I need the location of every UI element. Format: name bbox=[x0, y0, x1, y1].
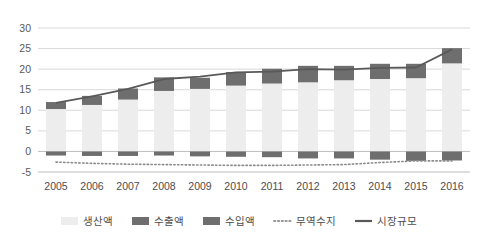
import-bar bbox=[262, 151, 282, 157]
y-tick-label-0: 0 bbox=[25, 145, 31, 157]
import-bar bbox=[298, 151, 318, 158]
legend-label-시장규모: 시장규모 bbox=[377, 215, 417, 227]
legend-label-수출액: 수출액 bbox=[154, 215, 184, 227]
trade-statistics-chart: -5051015202530 2005200620072008200920102… bbox=[0, 0, 478, 235]
export-bar bbox=[442, 48, 462, 63]
production-bar bbox=[442, 63, 462, 151]
legend-marker-수입액-swatch-icon bbox=[203, 217, 220, 225]
production-bar bbox=[118, 100, 138, 152]
x-tick-label-2005: 2005 bbox=[44, 180, 68, 192]
production-bar bbox=[154, 91, 174, 151]
import-bar bbox=[442, 151, 462, 160]
production-bar bbox=[298, 82, 318, 151]
import-bar bbox=[46, 151, 66, 155]
production-bar bbox=[226, 86, 246, 152]
legend-marker-수출액-swatch-icon bbox=[132, 217, 149, 225]
y-tick-label-30: 30 bbox=[19, 22, 31, 34]
y-tick-label-5: 5 bbox=[25, 124, 31, 136]
y-tick-label-20: 20 bbox=[19, 63, 31, 75]
y-tick-label-25: 25 bbox=[19, 42, 31, 54]
production-bar bbox=[262, 84, 282, 152]
export-bar bbox=[370, 64, 390, 79]
import-bar bbox=[226, 151, 246, 156]
x-tick-label-2010: 2010 bbox=[224, 180, 248, 192]
production-bar bbox=[46, 109, 66, 151]
export-bar bbox=[46, 102, 66, 109]
export-bar bbox=[190, 78, 210, 89]
chart-container: -5051015202530 2005200620072008200920102… bbox=[0, 0, 478, 235]
production-bar bbox=[370, 79, 390, 151]
x-tick-label-2013: 2013 bbox=[332, 180, 356, 192]
import-bar bbox=[190, 151, 210, 156]
x-tick-label-2011: 2011 bbox=[261, 180, 284, 192]
x-tick-label-2015: 2015 bbox=[404, 180, 428, 192]
import-bar bbox=[82, 151, 102, 156]
x-tick-label-2007: 2007 bbox=[116, 180, 140, 192]
y-tick-label--5: -5 bbox=[22, 166, 31, 178]
legend-label-무역수지: 무역수지 bbox=[296, 215, 336, 227]
x-tick-label-2009: 2009 bbox=[188, 180, 212, 192]
y-tick-label-15: 15 bbox=[19, 83, 31, 95]
import-bar bbox=[406, 151, 426, 160]
import-bar bbox=[154, 151, 174, 155]
export-bar bbox=[406, 64, 426, 78]
x-tick-label-2014: 2014 bbox=[368, 180, 392, 192]
production-bar bbox=[334, 80, 354, 151]
legend-label-수입액: 수입액 bbox=[225, 215, 255, 227]
y-tick-label-10: 10 bbox=[19, 104, 31, 116]
import-bar bbox=[334, 151, 354, 158]
production-bar bbox=[82, 105, 102, 151]
x-tick-label-2012: 2012 bbox=[296, 180, 320, 192]
export-bar bbox=[334, 66, 354, 80]
production-bar bbox=[406, 78, 426, 151]
legend-label-생산액: 생산액 bbox=[83, 215, 113, 227]
x-tick-label-2016: 2016 bbox=[440, 180, 464, 192]
import-bar bbox=[370, 151, 390, 159]
x-tick-label-2008: 2008 bbox=[152, 180, 176, 192]
import-bar bbox=[118, 151, 138, 156]
x-tick-label-2006: 2006 bbox=[80, 180, 104, 192]
legend-marker-생산액-swatch-icon bbox=[61, 217, 78, 225]
production-bar bbox=[190, 89, 210, 152]
